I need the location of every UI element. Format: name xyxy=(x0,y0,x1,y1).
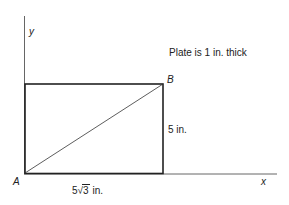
width-unit: in. xyxy=(90,185,103,196)
point-a-label: A xyxy=(13,177,20,187)
y-axis-label: y xyxy=(29,27,34,37)
plate-thickness-note: Plate is 1 in. thick xyxy=(169,48,247,58)
width-radicand: 3 xyxy=(82,184,90,196)
x-axis-label: x xyxy=(261,177,266,187)
width-dimension-label: 5√3 in. xyxy=(72,186,103,196)
diagonal-ab xyxy=(25,84,163,173)
plate-diagram xyxy=(0,0,289,205)
point-b-label: B xyxy=(167,75,174,85)
height-dimension-label: 5 in. xyxy=(168,125,187,135)
